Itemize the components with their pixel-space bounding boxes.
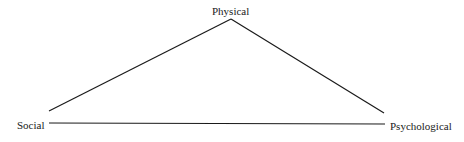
node-label-psychological: Psychological [390,120,452,132]
edge-physical-social [49,19,231,111]
edge-social-psychological [49,123,385,124]
node-label-social: Social [17,119,45,131]
node-label-physical: Physical [212,5,249,17]
edge-physical-psychological [231,19,384,113]
